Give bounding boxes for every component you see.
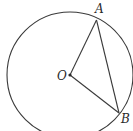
radius-oa	[70, 20, 97, 75]
circle-o	[7, 12, 133, 131]
label-o: O	[57, 69, 67, 83]
chord-ab	[97, 20, 120, 113]
label-b: B	[120, 112, 130, 126]
center-point-o	[68, 73, 71, 76]
circle-diagram: A O B	[0, 0, 133, 131]
label-a: A	[94, 2, 104, 16]
